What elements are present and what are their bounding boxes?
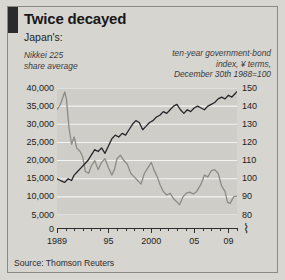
- x-axis-tick: [177, 228, 178, 231]
- y-axis-right-tick-label: 80: [242, 211, 252, 220]
- x-axis-tick: [211, 228, 212, 231]
- source-note: Source: Thomson Reuters: [14, 258, 114, 268]
- x-axis-tick: [186, 228, 187, 231]
- y-axis-left-tick-label: 20,000: [8, 156, 54, 165]
- y-axis-left-tick-label: 35,000: [8, 102, 54, 111]
- x-axis-line: [57, 228, 237, 229]
- y-axis-right-tick-label: 130: [242, 120, 257, 129]
- x-axis-tick-label: 2000: [131, 236, 171, 246]
- y-axis-right-tick-label: 90: [242, 192, 252, 201]
- x-axis-tick: [108, 228, 109, 233]
- series-line-nikkei: [57, 92, 237, 205]
- x-axis-tick: [74, 228, 75, 231]
- x-axis-tick: [203, 228, 204, 231]
- y-axis-right-tick-label: 150: [242, 84, 257, 93]
- x-axis-zero-label: 0: [8, 224, 54, 234]
- x-axis-tick: [100, 228, 101, 231]
- title-marker-icon: [8, 7, 18, 33]
- chart-lines: [57, 88, 237, 215]
- y-axis-left-tick-label: 5,000: [8, 211, 54, 220]
- y-axis-left-tick-label: 40,000: [8, 84, 54, 93]
- x-axis-tick-label: 1989: [37, 236, 77, 246]
- y-axis-left-tick-label: 25,000: [8, 138, 54, 147]
- x-axis-tick: [220, 228, 221, 231]
- x-axis-tick: [126, 228, 127, 231]
- x-axis-tick: [83, 228, 84, 231]
- x-axis-tick: [66, 228, 67, 231]
- gridlines: [57, 88, 237, 215]
- x-axis-tick: [168, 228, 169, 231]
- x-axis-tick-label: 09: [208, 236, 248, 246]
- x-axis-tick: [151, 228, 152, 233]
- y-axis-right-tick-label: 140: [242, 102, 257, 111]
- x-axis-tick: [160, 228, 161, 231]
- right-series-note: ten-year government-bondindex, ¥ terms,D…: [103, 48, 271, 80]
- chart-figure: Twice decayed Japan's: Nikkei 225share a…: [0, 0, 285, 280]
- axis-break-icon: ⌇: [243, 222, 249, 235]
- page-title: Twice decayed: [24, 10, 126, 28]
- x-axis-tick: [91, 228, 92, 231]
- y-axis-left-tick-label: 15,000: [8, 174, 54, 183]
- x-axis-tick: [117, 228, 118, 231]
- y-axis-right-tick-label: 110: [242, 156, 256, 165]
- plot-area: [57, 88, 237, 215]
- y-axis-left-tick-label: 10,000: [8, 192, 54, 201]
- y-axis-left-tick-label: 30,000: [8, 120, 54, 129]
- x-axis-tick: [194, 228, 195, 233]
- x-axis-tick: [228, 228, 229, 233]
- x-axis-tick: [57, 228, 58, 233]
- chart-subject-label: Japan's:: [24, 31, 63, 43]
- x-axis-tick: [237, 228, 238, 231]
- x-axis-tick-label: 95: [88, 236, 128, 246]
- y-axis-right-tick-label: 120: [242, 138, 257, 147]
- x-axis-tick: [143, 228, 144, 231]
- x-axis-tick: [134, 228, 135, 231]
- y-axis-right-tick-label: 100: [242, 174, 257, 183]
